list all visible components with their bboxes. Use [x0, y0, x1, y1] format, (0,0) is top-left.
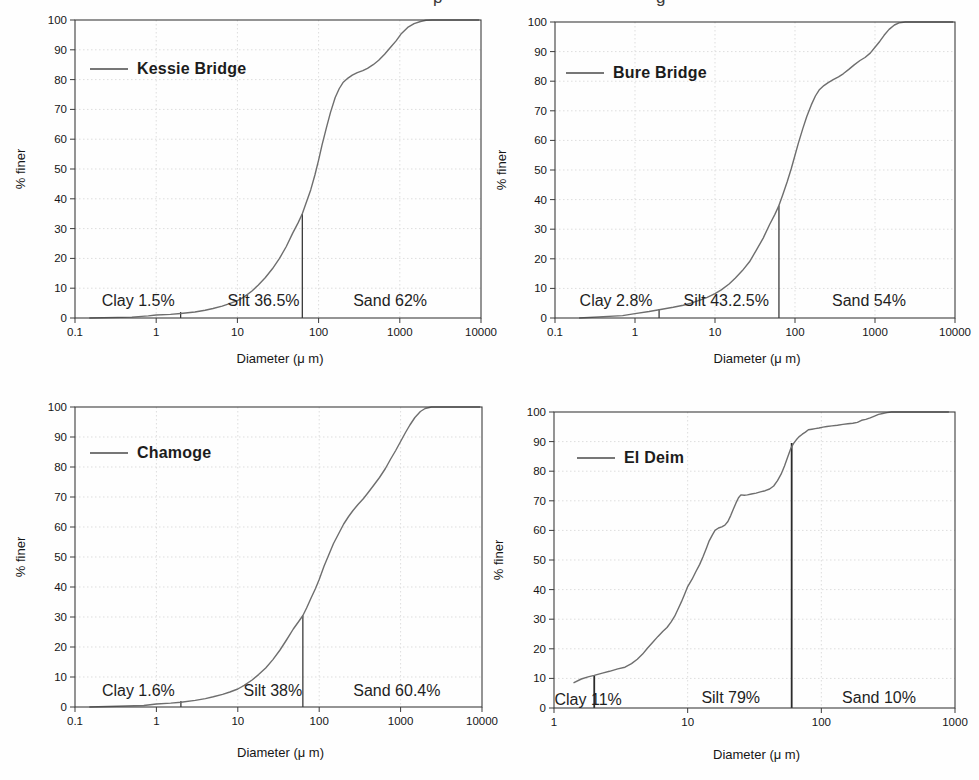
- y-tick-label: 40: [534, 194, 547, 206]
- x-tick-label: 10: [681, 716, 694, 728]
- x-tick-label: 1000: [942, 716, 968, 728]
- y-tick-label: 10: [534, 282, 547, 294]
- y-tick-label: 90: [54, 44, 67, 56]
- y-tick-label: 20: [54, 252, 67, 264]
- y-tick-label: 10: [54, 282, 67, 294]
- plot-area-bure-bridge: 01020304050607080901000.1110100100010000…: [479, 0, 979, 385]
- fraction-annotation: Clay 2.8%: [580, 292, 653, 309]
- legend: El Deim: [577, 449, 684, 467]
- legend-line-sample: [90, 452, 128, 454]
- y-tick-label: 70: [533, 495, 546, 507]
- legend-line-sample: [566, 72, 604, 74]
- plot-area-el-deim: 01020304050607080901001101001000Clay 11%…: [479, 385, 979, 780]
- y-tick-label: 100: [528, 16, 547, 28]
- x-tick-label: 1000: [387, 326, 413, 338]
- chart-bure-bridge: 01020304050607080901000.1110100100010000…: [479, 0, 979, 385]
- plot-area-kessie-bridge: 01020304050607080901000.1110100100010000…: [0, 0, 500, 385]
- y-tick-label: 30: [534, 223, 547, 235]
- fraction-annotation: Sand 10%: [842, 689, 916, 706]
- legend: Chamoge: [90, 444, 211, 462]
- y-tick-label: 50: [533, 554, 546, 566]
- y-tick-label: 60: [533, 524, 546, 536]
- y-tick-label: 70: [534, 105, 547, 117]
- y-tick-label: 40: [54, 193, 67, 205]
- y-tick-label: 30: [54, 223, 67, 235]
- y-tick-label: 50: [534, 164, 547, 176]
- x-tick-label: 10: [231, 326, 244, 338]
- y-axis-title: % finer: [13, 537, 28, 577]
- legend-line-sample: [577, 457, 615, 459]
- y-tick-label: 90: [54, 431, 67, 443]
- legend: Kessie Bridge: [90, 60, 246, 78]
- x-tick-label: 1000: [388, 715, 414, 727]
- y-tick-label: 0: [541, 312, 547, 324]
- y-tick-label: 70: [54, 491, 67, 503]
- scanned-figure-page: p g 01020304050607080901000.111010010001…: [0, 0, 979, 780]
- y-tick-label: 60: [54, 521, 67, 533]
- y-tick-label: 60: [54, 133, 67, 145]
- y-tick-label: 20: [533, 643, 546, 655]
- x-tick-label: 0.1: [67, 715, 83, 727]
- x-tick-label: 100: [309, 326, 328, 338]
- legend: Bure Bridge: [566, 64, 707, 82]
- y-tick-label: 40: [54, 581, 67, 593]
- fraction-annotation: Clay 11%: [554, 691, 621, 708]
- y-tick-label: 40: [533, 584, 546, 596]
- y-axis-title: % finer: [494, 150, 509, 190]
- fraction-annotation: Silt 43.2.5%: [683, 292, 768, 309]
- x-tick-label: 1: [153, 715, 159, 727]
- y-tick-label: 10: [54, 671, 67, 683]
- x-tick-label: 1: [632, 326, 638, 338]
- y-tick-label: 30: [533, 613, 546, 625]
- fraction-annotation: Sand 54%: [832, 292, 906, 309]
- x-tick-label: 1000: [862, 326, 888, 338]
- x-tick-label: 1: [153, 326, 159, 338]
- x-tick-label: 10: [231, 715, 244, 727]
- y-tick-label: 70: [54, 103, 67, 115]
- y-axis-title: % finer: [13, 149, 28, 189]
- y-tick-label: 30: [54, 611, 67, 623]
- chart-chamoge: 01020304050607080901000.1110100100010000…: [0, 385, 500, 780]
- fraction-annotation: Sand 62%: [353, 292, 427, 309]
- legend-label: Chamoge: [137, 444, 211, 462]
- fraction-annotation: Silt 36.5%: [228, 292, 300, 309]
- fraction-annotation: Silt 79%: [701, 689, 760, 706]
- y-tick-label: 100: [48, 401, 67, 413]
- y-tick-label: 100: [48, 14, 67, 26]
- fraction-annotation: Clay 1.6%: [102, 682, 175, 699]
- x-tick-label: 10: [709, 326, 722, 338]
- x-tick-label: 100: [785, 326, 804, 338]
- x-axis-title: Diameter (μ m): [237, 351, 324, 366]
- x-tick-label: 1: [551, 716, 557, 728]
- y-tick-label: 0: [61, 312, 67, 324]
- y-tick-label: 50: [54, 551, 67, 563]
- chart-kessie-bridge: 01020304050607080901000.1110100100010000…: [0, 0, 500, 385]
- x-axis-title: Diameter (μ m): [714, 351, 801, 366]
- y-tick-label: 0: [540, 702, 546, 714]
- y-tick-label: 80: [54, 74, 67, 86]
- y-tick-label: 90: [533, 436, 546, 448]
- plot-area-chamoge: 01020304050607080901000.1110100100010000…: [0, 385, 500, 780]
- y-tick-label: 80: [534, 75, 547, 87]
- legend-label: Kessie Bridge: [137, 60, 246, 78]
- y-tick-label: 20: [534, 253, 547, 265]
- x-axis-title: Diameter (μ m): [237, 745, 324, 760]
- x-tick-label: 100: [310, 715, 329, 727]
- x-axis-title: Diameter (μ m): [713, 747, 800, 762]
- y-axis-title: % finer: [491, 540, 506, 580]
- fraction-annotation: Sand 60.4%: [353, 682, 440, 699]
- y-tick-label: 80: [533, 465, 546, 477]
- legend-label: Bure Bridge: [613, 64, 707, 82]
- x-tick-label: 0.1: [67, 326, 83, 338]
- fraction-annotation: Clay 1.5%: [102, 292, 175, 309]
- y-tick-label: 100: [527, 406, 546, 418]
- y-tick-label: 20: [54, 641, 67, 653]
- legend-line-sample: [90, 68, 128, 70]
- x-tick-label: 100: [812, 716, 831, 728]
- legend-label: El Deim: [624, 449, 684, 467]
- y-tick-label: 60: [534, 134, 547, 146]
- y-tick-label: 0: [61, 701, 67, 713]
- fraction-annotation: Silt 38%: [244, 682, 303, 699]
- y-tick-label: 80: [54, 461, 67, 473]
- x-tick-label: 10000: [939, 326, 971, 338]
